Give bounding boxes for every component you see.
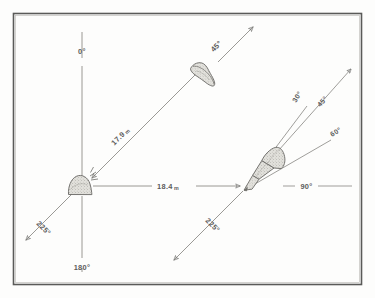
page-background (0, 0, 375, 298)
label-bearing-180: 180° (74, 263, 91, 272)
figure-container: 0° 180° 18.4m 225° 17.9m 45° (0, 0, 375, 298)
label-bearing-0: 0° (78, 47, 86, 56)
label-bearing-90: 90° (300, 182, 312, 191)
bearing-diagram: 0° 180° 18.4m 225° 17.9m 45° (0, 0, 375, 298)
